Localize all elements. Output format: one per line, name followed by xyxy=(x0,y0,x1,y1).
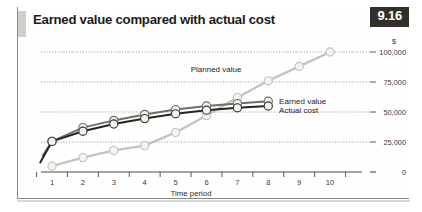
figure-number-badge: 9.16 xyxy=(370,7,409,27)
figure-title-row: Earned value compared with actual cost xyxy=(17,9,409,39)
page-edge-top xyxy=(0,0,422,6)
page-edge-left xyxy=(0,0,14,212)
title-accent-bar xyxy=(18,11,26,37)
page-title: Earned value compared with actual cost xyxy=(33,12,275,27)
scanned-page: Earned value compared with actual cost 9… xyxy=(0,0,422,212)
page-edge-bottom xyxy=(0,206,422,212)
